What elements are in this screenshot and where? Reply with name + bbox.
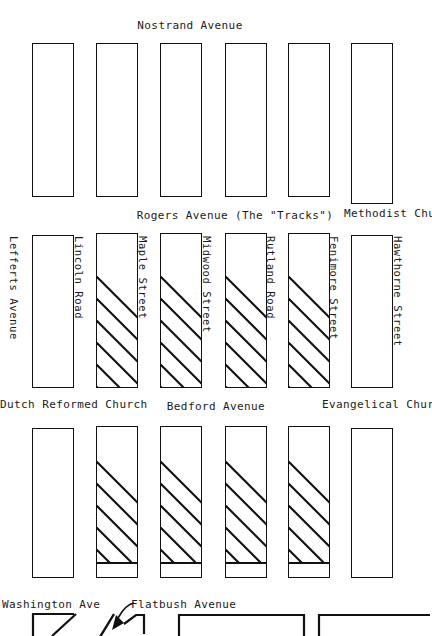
block-row2-col3[interactable] <box>225 233 267 388</box>
block-row4-col0[interactable] <box>32 612 80 636</box>
avenue-label-rogers: Rogers Avenue (The "Tracks") <box>120 209 350 222</box>
block-row3-col1[interactable] <box>96 426 138 578</box>
block-row3-col0[interactable] <box>32 428 74 578</box>
landmark-label-evangelical-church: Evangelical Church <box>322 398 432 411</box>
block-row3-col3[interactable] <box>225 426 267 578</box>
block-row2-col4[interactable] <box>288 233 330 388</box>
block-divider <box>288 562 330 564</box>
landmark-label-dutch-reformed-church: Dutch Reformed Church <box>0 398 140 411</box>
block-row1-col2[interactable] <box>160 43 202 197</box>
hatch-fill <box>289 427 329 577</box>
hatch-fill <box>161 427 201 577</box>
block-row2-col2[interactable] <box>160 233 202 388</box>
block-row4-col2[interactable] <box>178 612 308 636</box>
block-divider <box>160 562 202 564</box>
street-label-fenimore-street: Fenimore Street <box>328 236 340 340</box>
hatch-fill <box>289 234 329 387</box>
hatch-fill <box>97 427 137 577</box>
street-label-lefferts-avenue: Lefferts Avenue <box>8 236 20 340</box>
avenue-label-bedford: Bedford Avenue <box>130 400 302 413</box>
street-label-rutland-road: Rutland Road <box>265 236 277 319</box>
street-label-hawthorne-street: Hawthorne Street <box>392 236 404 347</box>
block-row4-col1[interactable] <box>96 610 146 636</box>
block-row1-col1[interactable] <box>96 43 138 197</box>
block-row2-col0[interactable] <box>32 235 74 388</box>
avenue-label-flatbush: Flatbush Avenue <box>131 598 236 611</box>
block-row1-col3[interactable] <box>225 43 267 197</box>
hatch-fill <box>97 234 137 387</box>
block-row2-col5[interactable] <box>351 235 393 388</box>
block-row2-col1[interactable] <box>96 233 138 388</box>
block-row3-col5[interactable] <box>351 428 393 578</box>
landmark-label-methodist-church: Methodist Church <box>344 207 432 220</box>
avenue-label-washington: Washington Ave <box>2 598 100 611</box>
block-row3-col2[interactable] <box>160 426 202 578</box>
street-label-midwood-street: Midwood Street <box>201 236 213 333</box>
block-row1-col0[interactable] <box>32 43 74 197</box>
block-divider <box>96 562 138 564</box>
avenue-label-nostrand: Nostrand Avenue <box>110 19 270 32</box>
block-row4-col3[interactable] <box>318 612 432 636</box>
map-canvas: Nostrand Avenue Rogers Avenue (The "Trac… <box>0 0 432 636</box>
street-label-maple-street: Maple Street <box>137 236 149 319</box>
block-divider <box>225 562 267 564</box>
hatch-fill <box>226 427 266 577</box>
block-row1-col4[interactable] <box>288 43 330 197</box>
hatch-fill <box>226 234 266 387</box>
block-row3-col4[interactable] <box>288 426 330 578</box>
street-label-lincoln-road: Lincoln Road <box>73 236 85 319</box>
hatch-fill <box>161 234 201 387</box>
block-row1-col5[interactable] <box>351 43 393 204</box>
